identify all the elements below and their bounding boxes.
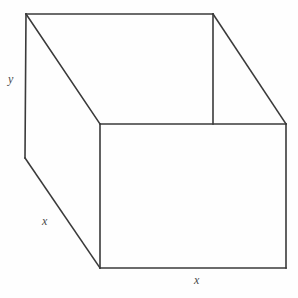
back-right-rim-edge [213,14,286,124]
box-diagram-figure: y x x [0,0,298,298]
depth-label-x: x [42,215,47,227]
left-vertical-edge [25,14,26,158]
box-wireframe-svg [0,0,298,298]
width-label-x: x [194,274,199,286]
bottom-left-diagonal-edge [25,158,100,268]
left-rim-diagonal-edge [26,14,100,124]
height-label-y: y [8,73,13,85]
